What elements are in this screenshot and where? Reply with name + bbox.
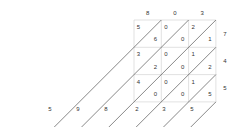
cell-tens-digit: 3	[137, 51, 141, 57]
cell-tens-digit: 5	[137, 24, 141, 30]
cell-ones-digit: 6	[154, 36, 158, 42]
cell-ones-digit: 0	[181, 64, 185, 70]
cell-tens-digit: 1	[191, 79, 195, 85]
multiplicand-digit: 0	[173, 10, 177, 16]
cell-tens-digit: 1	[191, 51, 195, 57]
result-digit: 5	[48, 106, 52, 112]
result-digit: 9	[76, 106, 80, 112]
cell-ones-digit: 1	[208, 36, 212, 42]
cell-ones-digit: 0	[154, 91, 158, 97]
multiplicand-digit: 8	[146, 10, 150, 16]
diagonal-line	[54, 20, 161, 127]
multiplier-digit: 5	[223, 85, 227, 91]
result-digit: 8	[104, 106, 108, 112]
cell-ones-digit: 2	[208, 64, 212, 70]
cell-tens-digit: 4	[137, 79, 141, 85]
cell-tens-digit: 0	[164, 24, 168, 30]
multiplicand-digit: 3	[201, 10, 205, 16]
cell-ones-digit: 2	[154, 64, 158, 70]
cell-ones-digit: 5	[208, 91, 212, 97]
lattice-diagram: 803745560021320012400015598235	[0, 0, 238, 135]
result-digit: 3	[162, 106, 166, 112]
cell-tens-digit: 0	[164, 51, 168, 57]
multiplier-digit: 4	[223, 58, 227, 64]
result-digit: 5	[190, 106, 194, 112]
cell-ones-digit: 0	[181, 91, 185, 97]
cell-tens-digit: 2	[191, 24, 195, 30]
cell-ones-digit: 0	[181, 36, 185, 42]
result-digit: 2	[135, 106, 139, 112]
diagonal-line	[164, 75, 216, 127]
diagonal-line	[136, 47, 216, 127]
diagonal-line	[191, 102, 216, 127]
cell-tens-digit: 0	[164, 79, 168, 85]
multiplier-digit: 7	[223, 31, 227, 37]
